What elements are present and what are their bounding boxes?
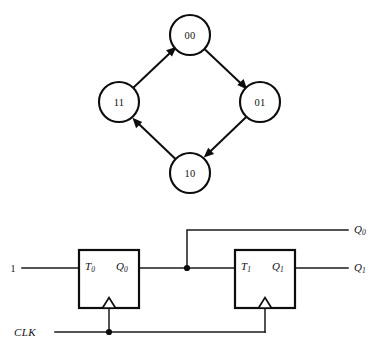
flipflop-t1[interactable]: T1 Q1 (235, 250, 295, 308)
transition-00-to-01 (205, 50, 247, 90)
state-diagram: 00 01 10 11 (99, 15, 280, 193)
transition-line (136, 121, 176, 159)
transition-line (133, 50, 173, 88)
transition-line (205, 50, 244, 87)
input-label-clk: CLK (14, 326, 36, 338)
figure-canvas: 00 01 10 11 (0, 0, 376, 348)
state-node-11[interactable]: 11 (99, 82, 139, 122)
figure-root: 00 01 10 11 (0, 0, 376, 348)
output-label-q1: Q1 (354, 261, 366, 275)
junction-dot-clk (106, 329, 112, 335)
transition-11-to-00 (133, 47, 177, 88)
output-label-q0: Q0 (354, 223, 366, 237)
state-label-11: 11 (114, 97, 125, 108)
input-label-constant-one: 1 (11, 263, 16, 274)
flipflop-t0[interactable]: T0 Q0 (79, 250, 139, 308)
circuit-schematic: T0 Q0 T1 Q1 1 CLK Q0 Q1 (11, 223, 366, 338)
state-node-01[interactable]: 01 (240, 82, 280, 122)
transition-10-to-11 (132, 118, 175, 159)
state-node-10[interactable]: 10 (170, 153, 210, 193)
transition-line (207, 117, 246, 154)
state-label-00: 00 (184, 30, 195, 41)
state-node-00[interactable]: 00 (170, 15, 210, 55)
transition-01-to-10 (204, 117, 247, 158)
state-label-10: 10 (184, 168, 195, 179)
state-label-01: 01 (254, 97, 265, 108)
junction-dot-q0 (184, 265, 190, 271)
